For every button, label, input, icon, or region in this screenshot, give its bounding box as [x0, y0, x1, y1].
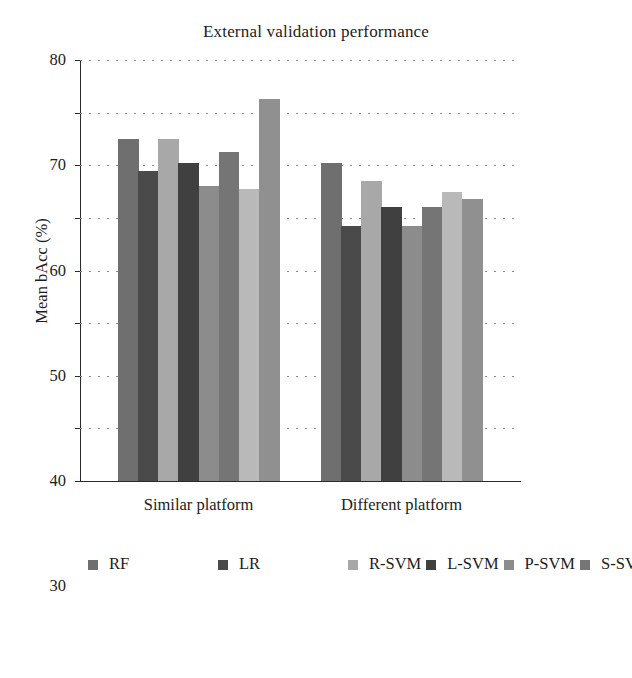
bar — [118, 139, 139, 481]
legend-color-swatch-icon — [218, 560, 228, 570]
plot-area: Mean bAcc (%) 01020304050607080 — [80, 60, 520, 481]
bar — [138, 171, 159, 481]
x-axis-line — [80, 481, 521, 482]
bar — [199, 186, 220, 481]
chart-legend: RFLRR-SVML-SVMP-SVMS-SVMNNETVote — [88, 552, 428, 577]
bar — [321, 163, 342, 481]
gridline — [80, 113, 520, 114]
legend-color-swatch-icon — [348, 560, 358, 570]
y-tick-label: 30 — [50, 576, 67, 596]
bar — [462, 199, 483, 481]
legend-color-swatch-icon — [88, 560, 98, 570]
legend-item[interactable]: L-SVM — [426, 552, 498, 577]
y-tick-mark: 0 — [75, 481, 80, 482]
y-tick-label: 40 — [50, 471, 67, 491]
legend-item[interactable]: P-SVM — [504, 552, 575, 577]
bar — [442, 192, 463, 481]
legend-color-swatch-icon — [504, 560, 514, 570]
legend-label: RF — [109, 556, 129, 573]
chart-title: External validation performance — [0, 22, 632, 42]
legend-item[interactable]: R-SVM — [348, 552, 421, 577]
legend-label: P-SVM — [525, 556, 575, 573]
bar — [178, 163, 199, 481]
legend-color-swatch-icon — [426, 560, 436, 570]
x-axis-category-label: Different platform — [302, 495, 502, 515]
legend-label: R-SVM — [369, 556, 421, 573]
legend-label: S-SVM — [601, 556, 632, 573]
bar — [422, 207, 443, 481]
legend-item[interactable]: RF — [88, 552, 213, 577]
bar — [158, 139, 179, 481]
bar — [239, 189, 260, 481]
legend-label: L-SVM — [447, 556, 498, 573]
bar — [361, 181, 382, 481]
legend-color-swatch-icon — [580, 560, 590, 570]
bar — [259, 99, 280, 481]
y-tick-label: 80 — [50, 50, 67, 70]
legend-item[interactable]: S-SVM — [580, 552, 632, 577]
y-tick-label: 50 — [50, 366, 67, 386]
chart-figure: External validation performance Mean bAc… — [0, 0, 632, 678]
gridline — [80, 60, 520, 61]
gridline — [80, 165, 520, 166]
bar — [219, 152, 240, 481]
y-tick-label: 70 — [50, 155, 67, 175]
bar — [402, 226, 423, 481]
legend-item[interactable]: LR — [218, 552, 343, 577]
y-tick-label: 60 — [50, 261, 67, 281]
legend-label: LR — [239, 556, 260, 573]
bar — [341, 226, 362, 481]
x-axis-category-label: Similar platform — [99, 495, 299, 515]
bar — [381, 207, 402, 481]
